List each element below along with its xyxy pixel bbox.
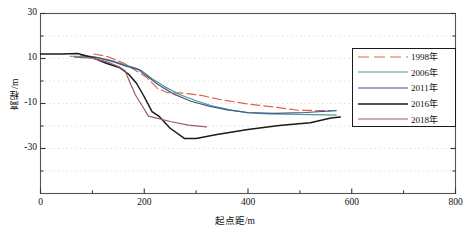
legend-item[interactable]: 2016年 [353,96,455,112]
x-tick-label: 800 [447,197,465,207]
legend-item[interactable]: 1998年 [353,49,455,65]
chart-legend: 1998年 2006年 2011年 2016年 2018年 [352,48,456,127]
x-axis-label: 起点距/m [0,213,470,227]
legend-label: 2006年 [411,66,438,79]
legend-label: 1998年 [411,50,438,63]
y-tick-label: 30 [16,7,37,17]
y-tick-label: -30 [16,142,37,152]
x-tick-label: 400 [239,197,257,207]
legend-line-swatch-2006 [357,66,409,78]
series-line-2018 [74,57,206,127]
legend-line-swatch-2018 [357,113,409,125]
legend-line-swatch-1998 [357,51,409,63]
chart-container: 高程/m 起点距/m 02004006008003010-10-30 1998年… [0,0,470,233]
legend-label: 2018年 [411,113,438,126]
x-tick-label: 200 [135,197,153,207]
legend-item[interactable]: 2006年 [353,65,455,81]
legend-item[interactable]: 2018年 [353,111,455,127]
x-tick-label: 600 [343,197,361,207]
y-tick-label: 10 [16,52,37,62]
legend-label: 2011年 [411,81,438,94]
y-tick-label: -10 [16,97,37,107]
legend-line-swatch-2011 [357,82,409,94]
x-tick-label: 0 [32,197,50,207]
legend-label: 2016年 [411,97,438,110]
legend-item[interactable]: 2011年 [353,80,455,96]
legend-line-swatch-2016 [357,98,409,110]
